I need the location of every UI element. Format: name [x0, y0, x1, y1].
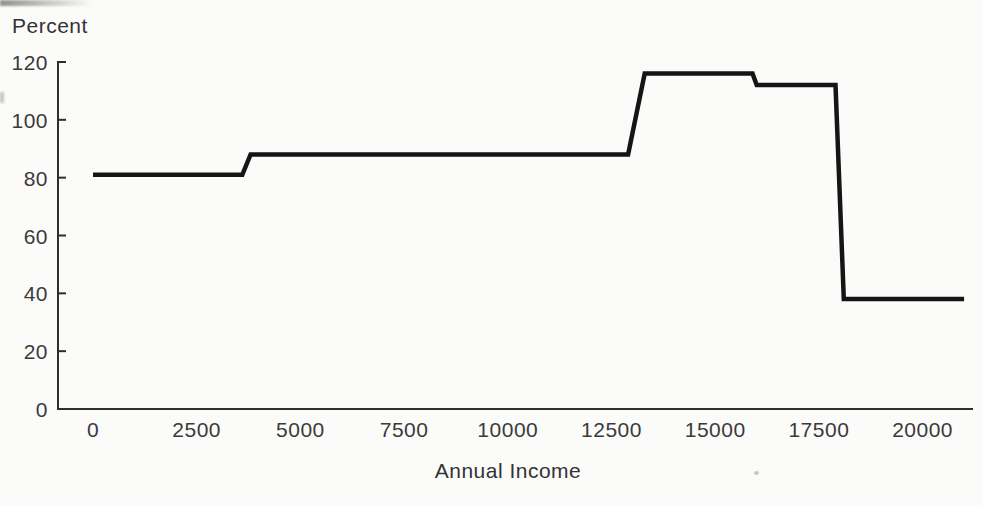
x-tick-label: 7500 — [380, 418, 429, 441]
x-tick-label: 10000 — [477, 418, 538, 441]
x-tick-label: 15000 — [685, 418, 746, 441]
y-axis: 020406080100120 — [11, 51, 66, 421]
x-axis-title: Annual Income — [435, 459, 582, 482]
x-axis: 02500500075001000012500150001750020000 — [57, 409, 973, 441]
x-tick-label: 12500 — [581, 418, 642, 441]
y-tick-label: 80 — [24, 167, 48, 190]
x-tick-labels: 02500500075001000012500150001750020000 — [87, 418, 953, 441]
y-tick-label: 0 — [36, 398, 48, 421]
x-tick-label: 20000 — [892, 418, 953, 441]
x-tick-label: 0 — [87, 418, 99, 441]
x-tick-label: 5000 — [276, 418, 325, 441]
data-line — [93, 74, 964, 300]
y-tick-label: 20 — [24, 340, 48, 363]
x-tick-label: 17500 — [788, 418, 849, 441]
y-axis-title: Percent — [12, 14, 88, 37]
y-tick-label: 60 — [24, 225, 48, 248]
figure-canvas: Percent 020406080100120 0250050007500100… — [0, 0, 983, 505]
line-chart: Percent 020406080100120 0250050007500100… — [0, 0, 983, 505]
y-tick-label: 40 — [24, 282, 48, 305]
y-tick-label: 120 — [11, 51, 48, 74]
x-tick-label: 2500 — [172, 418, 221, 441]
y-tick-label: 100 — [11, 109, 48, 132]
